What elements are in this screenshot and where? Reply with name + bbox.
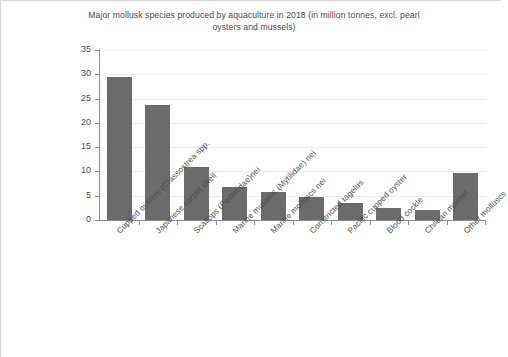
x-axis-tick-label: Other molluscs <box>462 189 508 235</box>
x-axis-tick-label: Scallops (Pectinidae)nei <box>192 165 262 235</box>
x-axis-tick-label: Blood cockle <box>385 195 425 235</box>
x-axis-labels: Cupped oysters (Crassostrea spp.Japanese… <box>1 1 502 357</box>
